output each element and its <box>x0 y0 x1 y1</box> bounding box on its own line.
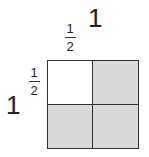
cell-bottom-left <box>48 105 93 149</box>
fraction-bar <box>29 81 40 82</box>
denominator: 2 <box>30 84 37 97</box>
numerator: 1 <box>66 22 73 35</box>
denominator: 2 <box>66 40 73 53</box>
top-half-fraction: 1 2 <box>63 22 77 53</box>
left-whole-label: 1 <box>6 92 20 118</box>
top-whole-label: 1 <box>88 5 102 31</box>
fraction-bar <box>65 37 76 38</box>
unit-square <box>47 60 139 149</box>
cell-bottom-right <box>93 105 138 149</box>
left-half-fraction: 1 2 <box>27 66 41 97</box>
cell-top-right <box>93 61 138 105</box>
cell-top-left <box>48 61 93 105</box>
numerator: 1 <box>30 66 37 79</box>
